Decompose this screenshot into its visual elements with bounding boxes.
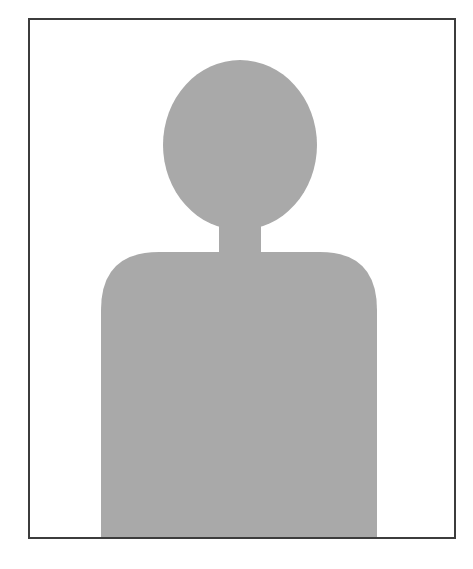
photo-frame bbox=[28, 18, 456, 539]
torso-shape bbox=[101, 252, 377, 537]
head-shape bbox=[163, 60, 317, 230]
photo-placeholder bbox=[0, 0, 473, 569]
person-silhouette-icon bbox=[30, 20, 454, 537]
